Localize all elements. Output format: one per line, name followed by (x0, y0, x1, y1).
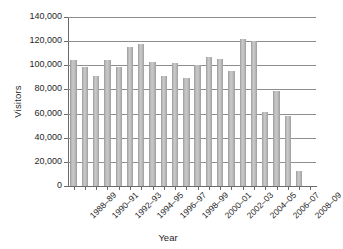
y-tick-mark (64, 41, 68, 42)
y-tick-mark (64, 162, 68, 163)
y-tick-label: 0 (0, 180, 62, 190)
bar (194, 65, 200, 186)
x-axis-title: Year (0, 232, 336, 243)
bar (251, 41, 257, 186)
y-tick-label: 120,000 (0, 35, 62, 45)
bar (82, 67, 88, 187)
x-tick-mark (164, 186, 165, 190)
x-tick-mark (96, 186, 97, 190)
y-tick-label: 80,000 (0, 83, 62, 93)
bar (70, 60, 76, 186)
bar (262, 112, 268, 186)
bar (206, 57, 212, 186)
bar (116, 67, 122, 187)
bar (138, 44, 144, 186)
x-tick-mark (265, 186, 266, 190)
x-tick-mark (186, 186, 187, 190)
y-tick-label: 60,000 (0, 108, 62, 118)
y-tick-label: 40,000 (0, 132, 62, 142)
y-tick-label: 100,000 (0, 59, 62, 69)
bar (273, 91, 279, 186)
bar (127, 47, 133, 186)
x-tick-mark (231, 186, 232, 190)
y-axis-title: Visitors (12, 62, 23, 142)
bar (183, 78, 189, 186)
bar (161, 76, 167, 186)
x-tick-mark (254, 186, 255, 190)
bar (149, 62, 155, 186)
y-tick-mark (64, 186, 68, 187)
x-tick-mark (153, 186, 154, 190)
x-tick-mark (310, 186, 311, 190)
bar (217, 59, 223, 186)
bar (93, 76, 99, 186)
x-axis-line (68, 186, 317, 187)
plot-area (68, 17, 316, 186)
bar (296, 171, 302, 186)
bar (285, 116, 291, 186)
x-tick-mark (198, 186, 199, 190)
bar (172, 63, 178, 186)
x-tick-mark (277, 186, 278, 190)
bar-series (68, 17, 316, 186)
bar (228, 71, 234, 186)
x-tick-mark (74, 186, 75, 190)
y-tick-mark (64, 65, 68, 66)
y-tick-mark (64, 89, 68, 90)
x-tick-mark (209, 186, 210, 190)
x-tick-mark (85, 186, 86, 190)
y-tick-label: 140,000 (0, 11, 62, 21)
x-tick-mark (220, 186, 221, 190)
x-tick-mark (119, 186, 120, 190)
x-tick-mark (130, 186, 131, 190)
y-tick-label: 20,000 (0, 156, 62, 166)
x-tick-mark (243, 186, 244, 190)
x-tick-mark (107, 186, 108, 190)
y-tick-mark (64, 114, 68, 115)
bar (104, 60, 110, 186)
x-tick-mark (141, 186, 142, 190)
x-tick-mark (288, 186, 289, 190)
x-tick-mark (175, 186, 176, 190)
x-tick-mark (299, 186, 300, 190)
bar (240, 39, 246, 186)
y-tick-mark (64, 138, 68, 139)
y-tick-mark (64, 17, 68, 18)
